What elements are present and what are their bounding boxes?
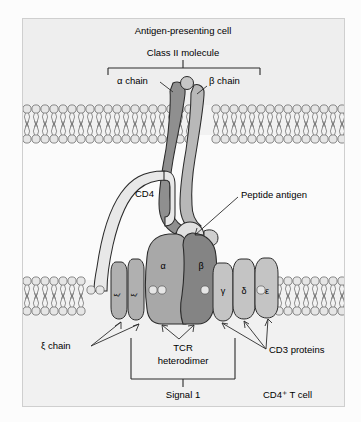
immunological-synapse-diagram: ξ ξ α β γ δ ε [23,19,344,406]
zeta-chain-1 [111,262,127,319]
diagram-panel: ξ ξ α β γ δ ε [22,18,345,407]
apc-title: Antigen-presenting cell [135,25,232,36]
tcr-heterodimer-label-line1: TCR [173,342,193,353]
cd3-delta-label: δ [241,286,246,296]
zeta-chain-label: ξ chain [41,340,71,351]
diagram-svg-wrapper: ξ ξ α β γ δ ε [23,19,344,406]
tcell-title: CD4⁺ T cell [263,389,312,400]
tcr-alpha-label: α [160,261,165,271]
tcr-heterodimer-label-line2: heterodimer [158,355,209,366]
class-ii-molecule-label: Class II molecule [147,47,219,58]
mhc-beta-domain-knob [181,77,194,90]
cd3-gamma-label: γ [221,286,226,296]
tcr-beta-label: β [198,261,203,271]
figure-canvas: ξ ξ α β γ δ ε [0,0,361,422]
signal-1-label: Signal 1 [166,389,200,400]
cd4-label: CD4 [135,188,154,199]
tcr-beta-subunit [181,233,217,324]
zeta-chain-2 [128,259,144,320]
cd3-proteins-label: CD3 proteins [269,344,325,355]
mhc-alpha-chain-label: α chain [117,75,148,86]
peptide-antigen-label: Peptide antigen [241,189,307,200]
cd3-epsilon-label: ε [265,286,269,296]
mhc-beta-chain-label: β chain [209,75,240,86]
